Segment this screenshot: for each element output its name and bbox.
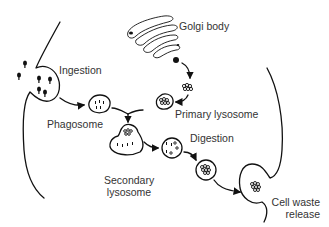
arrow-to-residual-body	[184, 152, 196, 160]
digestion-vesicle	[162, 138, 182, 158]
arrow-to-exocytosis	[214, 180, 240, 192]
primary-lysosome	[156, 94, 173, 109]
arrow-to-digestion	[144, 142, 158, 148]
diagram-drawing	[0, 0, 329, 227]
arrow-to-phagosome	[60, 98, 84, 105]
arrow-to-primary-lysosome	[176, 95, 188, 102]
label-golgi-body: Golgi body	[179, 20, 229, 32]
enzyme-cluster	[182, 83, 192, 90]
left-membrane	[23, 22, 60, 198]
label-cell-waste-line2: release	[262, 208, 320, 220]
label-digestion: Digestion	[190, 132, 234, 144]
label-secondary-lysosome: Secondary lysosome	[104, 174, 154, 198]
label-secondary-line2: lysosome	[104, 186, 154, 198]
golgi-vesicle	[173, 57, 179, 63]
ingested-particles	[17, 60, 52, 97]
golgi-body	[128, 16, 180, 58]
label-primary-lysosome: Primary lysosome	[175, 108, 258, 120]
merge-line-left	[112, 108, 128, 114]
arrow-golgi-to-lysosome	[182, 63, 190, 78]
label-phagosome: Phagosome	[47, 118, 103, 130]
cell-waste	[251, 182, 261, 192]
merge-line-right	[128, 110, 143, 114]
label-secondary-line1: Secondary	[104, 174, 154, 186]
secondary-lysosome	[110, 125, 143, 155]
label-cell-waste-line1: Cell waste	[262, 196, 320, 208]
lysosome-diagram: Golgi body Ingestion Phagosome Primary l…	[0, 0, 329, 227]
label-cell-waste-release: Cell waste release	[262, 196, 320, 220]
phagosome	[89, 95, 110, 113]
residual-body	[196, 160, 216, 180]
label-ingestion: Ingestion	[59, 64, 102, 76]
